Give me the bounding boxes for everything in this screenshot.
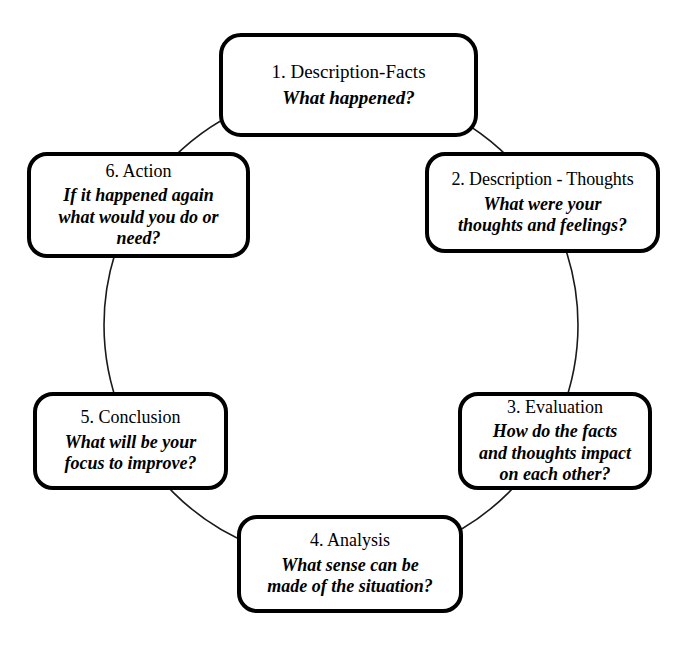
node-question: What happened? <box>282 87 415 109</box>
node-description-facts[interactable]: 1. Description-Facts What happened? <box>219 33 478 137</box>
node-question-line: what would you do or <box>58 207 218 228</box>
node-question: What were your thoughts and feelings? <box>458 194 627 236</box>
node-question-line: What will be your <box>65 432 197 453</box>
node-action[interactable]: 6. Action If it happened again what woul… <box>27 152 250 258</box>
node-question-line: focus to improve? <box>65 453 197 474</box>
node-question-line: and thoughts impact <box>479 443 631 464</box>
node-question-line: What happened? <box>282 87 415 109</box>
node-question: How do the facts and thoughts impact on … <box>479 421 631 485</box>
node-question-line: need? <box>58 228 218 249</box>
node-question: What will be your focus to improve? <box>65 432 197 474</box>
node-question-line: If it happened again <box>58 185 218 206</box>
node-title: 6. Action <box>106 161 172 183</box>
node-title: 5. Conclusion <box>80 407 180 429</box>
node-title: 2. Description - Thoughts <box>451 169 633 191</box>
node-title: 3. Evaluation <box>507 397 603 419</box>
reflective-cycle-diagram: 1. Description-Facts What happened? 2. D… <box>0 0 680 645</box>
node-question-line: What sense can be <box>267 555 433 576</box>
node-question: If it happened again what would you do o… <box>58 185 218 249</box>
node-question-line: How do the facts <box>479 421 631 442</box>
node-question-line: made of the situation? <box>267 576 433 597</box>
node-title: 4. Analysis <box>310 530 390 552</box>
node-conclusion[interactable]: 5. Conclusion What will be your focus to… <box>33 392 228 490</box>
node-analysis[interactable]: 4. Analysis What sense can be made of th… <box>237 515 463 613</box>
node-description-thoughts[interactable]: 2. Description - Thoughts What were your… <box>425 152 660 253</box>
node-evaluation[interactable]: 3. Evaluation How do the facts and thoug… <box>458 392 652 490</box>
node-question-line: thoughts and feelings? <box>458 215 627 236</box>
node-question: What sense can be made of the situation? <box>267 555 433 597</box>
node-title: 1. Description-Facts <box>271 61 425 84</box>
node-question-line: on each other? <box>479 464 631 485</box>
node-question-line: What were your <box>458 194 627 215</box>
